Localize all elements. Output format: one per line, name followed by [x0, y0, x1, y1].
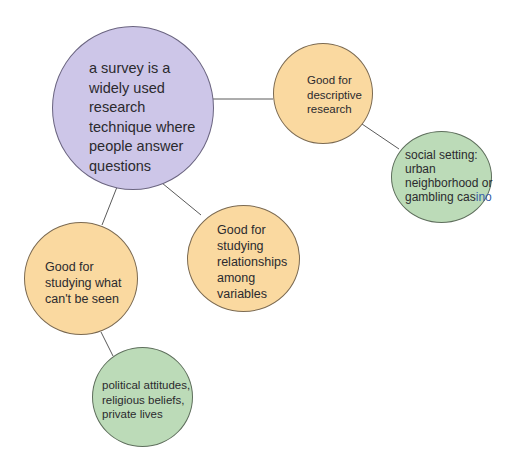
edge-central-cantbeseen — [102, 187, 117, 225]
central-node-text: a survey is a widely used research techn… — [89, 59, 195, 176]
edge-central-relationships — [162, 183, 201, 215]
social-setting-text-tail: ino — [476, 190, 492, 204]
edge-descriptive-social — [362, 124, 399, 149]
social-setting-node-text: social setting: urban neighborhood or ga… — [405, 148, 492, 204]
edge-cantbeseen-political — [101, 332, 113, 356]
political-node-text: political attitudes, religious beliefs, … — [102, 378, 190, 422]
cant-be-seen-node-text: Good for studying what can't be seen — [45, 259, 121, 307]
descriptive-node-text: Good for descriptive research — [307, 73, 362, 117]
concept-map: a survey is a widely used research techn… — [0, 0, 517, 466]
relationships-node-text: Good for studying relationships among va… — [217, 222, 287, 302]
